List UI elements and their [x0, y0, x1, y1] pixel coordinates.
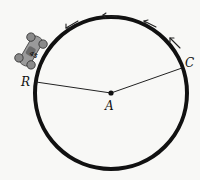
label-point-r: R: [20, 75, 30, 89]
center-point: [108, 90, 113, 95]
race-car-icon: 45: [13, 31, 49, 70]
label-point-c: C: [185, 56, 194, 70]
label-center-a: A: [104, 99, 114, 113]
radius-a-to-c: [111, 68, 182, 93]
circular-track-diagram: A R C 45: [0, 0, 200, 180]
radius-a-to-r: [36, 82, 111, 93]
